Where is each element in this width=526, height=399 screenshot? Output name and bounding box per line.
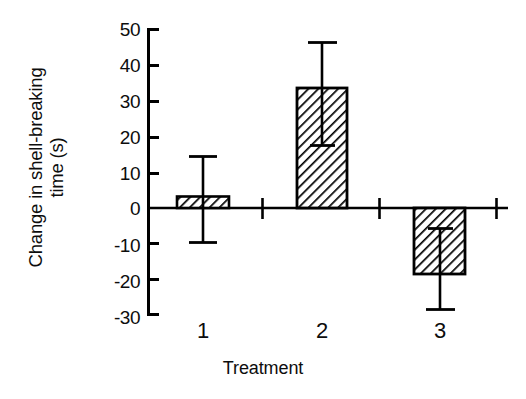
x-tick-label-2: 2: [292, 318, 352, 344]
y-axis: [148, 28, 159, 316]
x-tick-label-1: 1: [173, 318, 233, 344]
bar-chart-figure: Change in shell-breaking time (s) 50 40 …: [0, 0, 526, 399]
x-axis-label: Treatment: [0, 358, 526, 379]
x-tick-label-3: 3: [410, 318, 470, 344]
